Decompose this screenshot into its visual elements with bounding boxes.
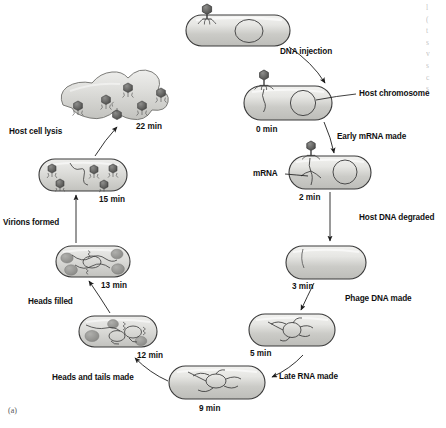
time-label-22-min: 22 min — [136, 123, 162, 131]
time-label-9-min: 9 min — [199, 405, 220, 413]
margin-text-line: ( — [426, 14, 446, 26]
time-label-12-min: 12 min — [137, 352, 163, 360]
lytic-cycle-figure: 0 min 2 min 3 min 5 min 9 min 12 min 13 … — [0, 0, 446, 428]
margin-text-line: c — [426, 72, 446, 84]
margin-text-column: l ( t s v s c s — [426, 2, 446, 97]
stage-free-phage — [186, 4, 290, 46]
label-host-chromosome: Host chromosome — [359, 90, 429, 98]
label-mrna: mRNA — [253, 170, 278, 178]
stage-3-min — [286, 246, 366, 279]
stage-15-min — [39, 159, 127, 192]
time-label-13-min: 13 min — [101, 282, 127, 290]
margin-text-line: t — [426, 25, 446, 37]
arrow-early-mrna — [324, 122, 334, 153]
margin-text-line: s — [426, 60, 446, 72]
label-heads-filled: Heads filled — [28, 298, 73, 306]
label-early-mrna-made: Early mRNA made — [337, 133, 406, 141]
stage-22-min — [61, 70, 168, 120]
time-label-0-min: 0 min — [256, 126, 277, 134]
label-virions-formed: Virions formed — [3, 219, 59, 227]
stage-9-min — [169, 366, 265, 399]
time-label-5-min: 5 min — [250, 350, 271, 358]
label-late-rna-made: Late RNA made — [279, 373, 338, 381]
time-label-2-min: 2 min — [299, 194, 320, 202]
stage-5-min — [249, 314, 335, 346]
margin-text-line: s — [426, 83, 446, 95]
time-label-3-min: 3 min — [292, 283, 313, 291]
margin-text-line: v — [426, 48, 446, 60]
stage-13-min — [56, 246, 130, 277]
arrow-host-cell-lysis — [95, 127, 117, 156]
label-dna-injection: DNA injection — [280, 48, 332, 56]
arrow-heads-and-tails-made — [135, 358, 168, 381]
panel-label: (a) — [8, 406, 17, 415]
stage-2-min — [289, 141, 371, 189]
stage-0-min — [244, 70, 332, 120]
label-phage-dna-made: Phage DNA made — [345, 295, 412, 303]
margin-text-line: l — [426, 2, 446, 14]
label-host-dna-degraded: Host DNA degraded — [359, 214, 434, 222]
stage-12-min — [79, 316, 157, 347]
label-heads-and-tails-made: Heads and tails made — [52, 374, 134, 382]
label-host-cell-lysis: Host cell lysis — [9, 128, 62, 136]
time-label-15-min: 15 min — [99, 196, 125, 204]
margin-text-line: s — [426, 37, 446, 49]
